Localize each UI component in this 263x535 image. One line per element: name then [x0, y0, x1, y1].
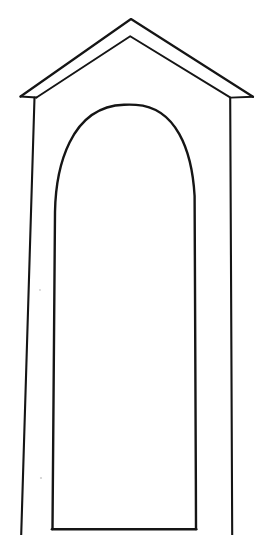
paper-speck-left: [40, 477, 42, 479]
drawing-canvas: Arched niche line drawing: [0, 0, 263, 535]
paper-speck-mid: [39, 289, 41, 291]
arched-niche-drawing: [0, 0, 263, 535]
paper-background: [0, 0, 263, 535]
roof-right-tip-return-path: [231, 97, 254, 98]
